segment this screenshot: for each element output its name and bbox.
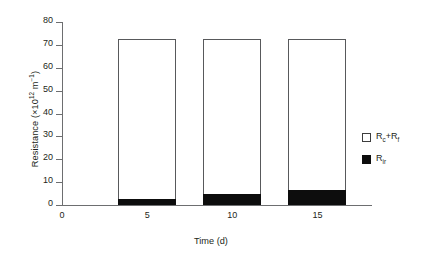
chart-figure: Resistance (×1012 m−1) 01020304050607080… — [0, 0, 432, 260]
y-axis-tick: 60 — [56, 68, 62, 69]
y-axis-tick-label: 40 — [43, 107, 53, 117]
y-axis-tick: 80 — [56, 22, 62, 23]
y-axis-title-text-2: m — [30, 81, 40, 91]
legend-swatch-open — [362, 133, 371, 142]
y-axis-title: Resistance (×1012 m−1) — [28, 39, 40, 199]
y-axis-tick-label: 20 — [43, 152, 53, 162]
y-axis-tick: 20 — [56, 159, 62, 160]
y-axis-tick-label: 50 — [43, 84, 53, 94]
bar-group — [118, 22, 176, 205]
x-axis-tick-label: 15 — [312, 210, 322, 220]
legend-label: Rir — [376, 153, 386, 165]
legend-item[interactable]: Rc+Rf — [362, 126, 399, 148]
y-axis-title-text-1: Resistance (×10 — [30, 99, 40, 167]
x-axis-line — [62, 205, 372, 206]
bar-segment-rir — [118, 199, 176, 205]
bar-group — [203, 22, 261, 205]
x-axis-title: Time (d) — [62, 236, 360, 246]
y-axis-tick-label: 70 — [43, 38, 53, 48]
bar-segment-rir — [203, 194, 261, 205]
y-axis-tick: 0 — [56, 205, 62, 206]
bar-segment-rc-rf — [288, 39, 346, 205]
legend-swatch-filled — [362, 155, 371, 164]
y-axis-tick: 50 — [56, 91, 62, 92]
plot-area: 01020304050607080 051015 — [62, 22, 360, 205]
bar-segment-rc-rf — [203, 39, 261, 205]
y-axis-title-text-3: ) — [30, 71, 40, 74]
y-axis-title-exponent: 12 — [28, 92, 35, 99]
y-axis-tick-label: 60 — [43, 61, 53, 71]
bar-segment-rir — [288, 190, 346, 205]
y-axis-tick-label: 0 — [48, 198, 53, 208]
y-axis-tick-label: 30 — [43, 129, 53, 139]
y-axis-tick: 70 — [56, 45, 62, 46]
y-axis-title-exponent-2: −1 — [28, 74, 35, 81]
y-axis-tick: 40 — [56, 114, 62, 115]
x-axis-tick-label: 0 — [59, 210, 64, 220]
y-axis-tick-label: 80 — [43, 15, 53, 25]
bar-segment-rc-rf — [118, 39, 176, 205]
y-axis-tick-label: 10 — [43, 175, 53, 185]
bar-group — [288, 22, 346, 205]
y-axis-line — [62, 22, 63, 205]
chart-legend: Rc+RfRir — [362, 126, 399, 170]
y-axis-tick: 10 — [56, 182, 62, 183]
x-axis-tick-label: 5 — [145, 210, 150, 220]
legend-item[interactable]: Rir — [362, 148, 399, 170]
x-axis-tick-label: 10 — [227, 210, 237, 220]
legend-label: Rc+Rf — [376, 131, 399, 143]
y-axis-tick: 30 — [56, 136, 62, 137]
